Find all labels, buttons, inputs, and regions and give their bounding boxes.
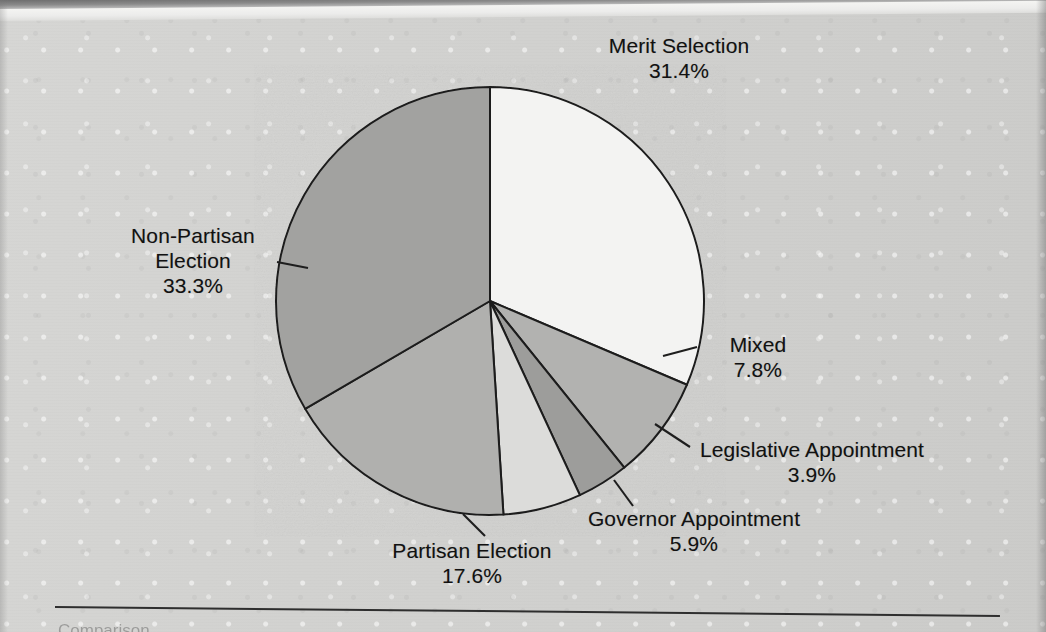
slice-label-governor-appointment: Governor Appointment 5.9% [562, 506, 826, 556]
slice-label-legislative-appointment-pct: 3.9% [670, 462, 954, 487]
footer-ghost-text-value: Comparison [58, 622, 558, 632]
slice-label-merit-selection: Merit Selection 31.4% [566, 33, 792, 83]
slice-label-non-partisan-election-name: Non-Partisan [131, 224, 255, 247]
slice-label-legislative-appointment: Legislative Appointment 3.9% [670, 437, 954, 487]
slice-label-mixed-pct: 7.8% [703, 357, 813, 382]
leader-line-governor [614, 480, 633, 506]
slice-label-merit-selection-name: Merit Selection [609, 34, 749, 57]
slice-label-non-partisan-election-pct: 33.3% [110, 273, 276, 298]
slice-label-legislative-appointment-name: Legislative Appointment [700, 438, 924, 461]
slice-label-governor-appointment-name: Governor Appointment [588, 507, 800, 530]
slice-label-merit-selection-pct: 31.4% [566, 58, 792, 83]
slice-label-partisan-election: Partisan Election 17.6% [361, 538, 583, 588]
slice-label-mixed: Mixed 7.8% [703, 332, 813, 382]
slice-label-mixed-name: Mixed [730, 333, 787, 356]
footer-ghost-text: Comparison [58, 622, 558, 632]
pie-chart-figure: Merit Selection 31.4% Mixed 7.8% Legisla… [0, 0, 1046, 632]
leader-line-partisan [463, 514, 485, 536]
slice-label-partisan-election-name: Partisan Election [392, 539, 551, 562]
slice-label-non-partisan-election-name2: Election [110, 248, 276, 273]
slice-label-governor-appointment-pct: 5.9% [562, 531, 826, 556]
slice-label-non-partisan-election: Non-Partisan Election 33.3% [110, 223, 276, 298]
pie-slices-group [276, 87, 704, 515]
slice-label-partisan-election-pct: 17.6% [361, 563, 583, 588]
